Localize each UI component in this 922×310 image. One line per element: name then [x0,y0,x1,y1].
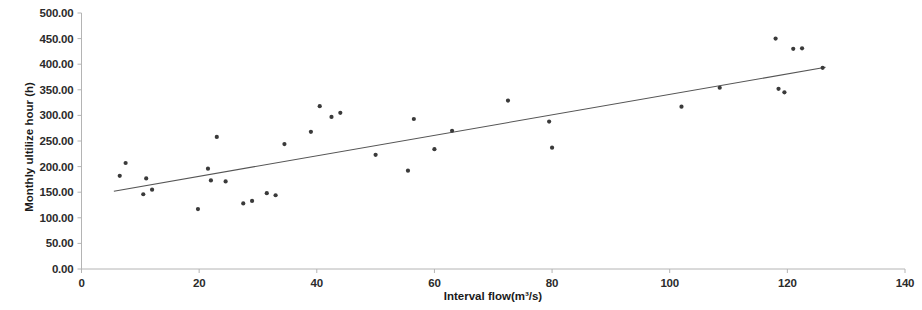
y-tick-label: 50.00 [0,237,74,249]
data-point [241,201,245,205]
data-point [718,86,722,90]
y-tick-label: 300.00 [0,109,74,121]
x-tick-label: 0 [78,277,84,289]
data-point [282,142,286,146]
data-point [547,119,551,123]
y-tick-label: 0.00 [0,263,74,275]
data-point [329,115,333,119]
plot-area [0,0,922,310]
data-point [412,117,416,121]
data-point [679,105,683,109]
x-tick-label: 100 [660,277,679,289]
x-tick-label: 140 [896,277,915,289]
data-points [118,37,825,212]
data-point [776,87,780,91]
data-point [782,90,786,94]
data-point [309,130,313,134]
x-axis-title: Interval flow(m³/s) [81,290,905,302]
data-point [318,104,322,108]
data-point [224,179,228,183]
data-point [450,129,454,133]
x-tick-label: 60 [428,277,440,289]
x-tick-label: 20 [193,277,205,289]
y-tick-label: 150.00 [0,186,74,198]
y-tick-label: 400.00 [0,58,74,70]
y-tick-label: 100.00 [0,212,74,224]
y-tick-label: 200.00 [0,161,74,173]
data-point [791,47,795,51]
data-point [374,153,378,157]
data-point [124,161,128,165]
y-tick-label: 450.00 [0,33,74,45]
data-point [206,167,210,171]
data-point [773,37,777,41]
data-point [118,174,122,178]
data-point [265,191,269,195]
data-point [150,188,154,192]
data-point [800,46,804,50]
y-tick-label: 250.00 [0,135,74,147]
data-point [209,178,213,182]
y-tick-label: 350.00 [0,84,74,96]
data-point [144,176,148,180]
data-point [821,66,825,70]
data-point [550,146,554,150]
x-tick-label: 40 [311,277,323,289]
data-point [215,135,219,139]
x-tick-label: 120 [778,277,797,289]
y-tick-label: 500.00 [0,7,74,19]
data-point [338,111,342,115]
data-point [274,193,278,197]
scatter-chart: 0.0050.00100.00150.00200.00250.00300.003… [0,0,922,310]
data-point [141,192,145,196]
tick-marks [78,13,906,273]
x-tick-label: 80 [546,277,558,289]
data-point [432,147,436,151]
data-point [506,98,510,102]
data-point [250,199,254,203]
axis-lines [82,13,906,269]
data-point [196,207,200,211]
data-point [406,169,410,173]
y-axis-title: Monthly ultilize hour (h) [23,32,35,262]
